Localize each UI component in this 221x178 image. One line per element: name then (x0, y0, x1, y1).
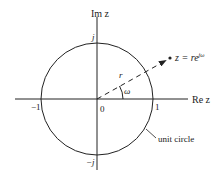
angle-label: ω (124, 86, 130, 96)
point-label: z = rejω (174, 52, 205, 63)
tick-neg-one: −1 (31, 102, 41, 112)
imag-axis-label: Im z (91, 8, 110, 19)
unit-circle-leader (146, 129, 156, 138)
radius-label: r (119, 70, 123, 80)
point-z (168, 56, 171, 59)
unit-circle-label: unit circle (158, 134, 194, 144)
point-label-exponent: jω (198, 52, 205, 58)
real-axis-label: Re z (192, 94, 211, 105)
angle-arc (120, 86, 124, 99)
tick-one: 1 (155, 102, 160, 112)
tick-neg-j: −j (86, 157, 95, 167)
origin-label: 0 (100, 104, 105, 114)
radius-vector (97, 61, 165, 99)
tick-j: j (91, 32, 95, 42)
point-label-base: z = re (174, 52, 199, 63)
z-plane-diagram: Im z Re z j −j 1 −1 0 r ω z = rejω unit … (0, 0, 221, 178)
